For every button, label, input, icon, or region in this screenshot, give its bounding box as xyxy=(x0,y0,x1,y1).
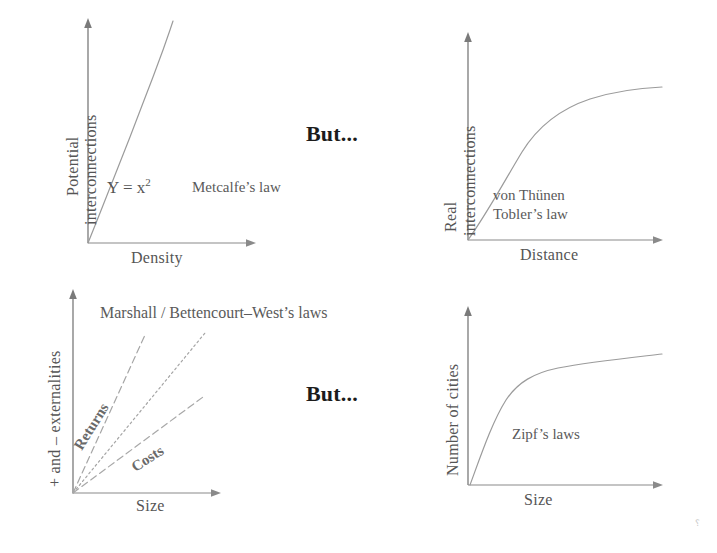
y-axis-label-line2: interconnections xyxy=(82,114,100,225)
scan-smudge-mark: ⸮ xyxy=(695,518,700,528)
x-axis-arrowhead xyxy=(653,481,663,488)
x-axis-label-size: Size xyxy=(524,491,553,509)
y-axis-label-number-of-cities: Number of cities xyxy=(444,364,462,476)
y-axis-arrowhead xyxy=(84,18,92,28)
top-right-chart-svg xyxy=(400,0,717,275)
connector-but-bottom: But... xyxy=(306,381,358,407)
x-axis-arrowhead xyxy=(211,489,221,496)
y-axis-label-line1: Real xyxy=(442,201,460,232)
annotation-toblers-law: Tobler’s law xyxy=(493,205,568,224)
x-axis-label-density: Density xyxy=(131,249,183,267)
top-left-chart-svg xyxy=(0,0,300,275)
data-curve-number-of-cities xyxy=(470,354,662,485)
x-axis-arrowhead xyxy=(653,236,663,243)
y-axis-label-line1: Potential xyxy=(64,136,82,196)
x-axis-label-size: Size xyxy=(136,497,165,515)
y-axis-arrowhead xyxy=(69,289,77,299)
formula-metcalfe: Y = x2 xyxy=(107,176,151,198)
formula-exponent: 2 xyxy=(145,176,151,188)
y-axis-arrowhead xyxy=(464,306,472,316)
four-panel-schematic-figure: Potential interconnections Density Y = x… xyxy=(0,0,717,553)
panel-externalities-vs-size: + and – externalities Size Marshall / Be… xyxy=(0,275,400,553)
connector-but-top: But... xyxy=(306,121,358,147)
panel-real-interconnections-vs-distance: Real interconnections Distance von Thüne… xyxy=(400,0,717,275)
annotation-metcalfes-law: Metcalfe’s law xyxy=(192,178,281,197)
formula-text: Y = x xyxy=(107,178,145,197)
panel-number-of-cities-vs-size: Number of cities Size Zipf’s laws ⸮ xyxy=(400,290,717,553)
annotation-zipfs-laws: Zipf’s laws xyxy=(512,425,580,444)
annotation-von-thunen: von Thünen xyxy=(493,186,565,205)
y-axis-label-externalities: + and – externalities xyxy=(46,350,64,487)
annotation-marshall-bettencourt-west-laws: Marshall / Bettencourt–West’s laws xyxy=(100,303,328,323)
x-axis-label-distance: Distance xyxy=(520,246,578,264)
panel-potential-interconnections-vs-density: Potential interconnections Density Y = x… xyxy=(0,0,300,275)
data-curve-potential-interconnections xyxy=(88,21,173,243)
x-axis-arrowhead xyxy=(246,239,256,246)
y-axis-label-line2: interconnections xyxy=(461,125,479,236)
y-axis-arrowhead xyxy=(464,32,472,42)
